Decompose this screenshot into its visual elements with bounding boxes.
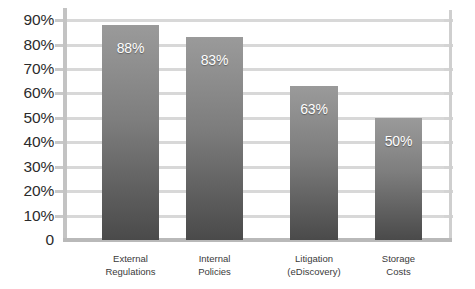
y-axis-tick-label: 30% xyxy=(0,159,54,175)
y-axis-tick-labels: 90%80%70%60%50%40%30%20%10%0 xyxy=(0,0,54,289)
y-axis-tick-label: 80% xyxy=(0,37,54,53)
y-axis-tick-label: 90% xyxy=(0,12,54,28)
y-axis-tick-label: 60% xyxy=(0,85,54,101)
bar-value-label: 50% xyxy=(375,134,422,148)
y-axis-tick-label: 50% xyxy=(0,110,54,126)
x-axis-category-label: StorageCosts xyxy=(339,253,459,278)
bar[interactable]: 50% xyxy=(375,118,422,240)
bar-chart: 90%80%70%60%50%40%30%20%10%0 88%83%63%50… xyxy=(0,0,475,289)
bar[interactable]: 63% xyxy=(290,86,338,240)
category-label-line: Costs xyxy=(339,266,459,279)
y-axis-tick-label: 0 xyxy=(0,232,54,248)
bar[interactable]: 88% xyxy=(102,25,159,240)
bar-value-label: 83% xyxy=(186,53,243,67)
bar-value-label: 63% xyxy=(290,102,338,116)
y-axis-tick-label: 70% xyxy=(0,61,54,77)
bar-value-label: 88% xyxy=(102,41,159,55)
category-label-line: Storage xyxy=(339,253,459,266)
plot-area: 88%83%63%50% xyxy=(63,8,451,240)
y-axis-tick-label: 10% xyxy=(0,208,54,224)
bar[interactable]: 83% xyxy=(186,37,243,240)
y-axis-tick-label: 20% xyxy=(0,183,54,199)
y-axis-tick-label: 40% xyxy=(0,134,54,150)
